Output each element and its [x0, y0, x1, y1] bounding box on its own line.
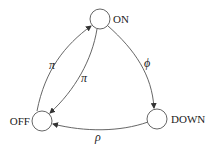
node-label-down: DOWN — [171, 113, 205, 125]
node-label-off: OFF — [10, 115, 30, 127]
node-down — [147, 109, 167, 129]
edge-down-to-off — [53, 122, 148, 130]
node-on — [90, 9, 110, 29]
edge-label-on-off: π — [81, 71, 88, 85]
edge-label-on-down: ϕ — [144, 56, 150, 70]
edge-label-down-off: ρ — [94, 130, 101, 144]
node-off — [32, 111, 52, 131]
state-diagram: ON OFF DOWN π π ϕ ρ — [0, 0, 212, 147]
node-label-on: ON — [113, 13, 129, 25]
edge-on-to-off — [50, 29, 97, 113]
edge-label-off-on: π — [49, 58, 56, 72]
